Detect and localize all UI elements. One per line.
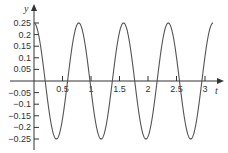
x-axis-arrow-icon	[217, 78, 224, 84]
y-tick-label: −0.25	[8, 134, 31, 144]
cosine-plot: 0.250.20.150.10.05−0.05−0.1−0.15−0.2−0.2…	[0, 0, 228, 153]
x-axis-ticks: 0.511.522.53	[56, 76, 207, 94]
x-tick-label: 1.5	[113, 84, 126, 94]
y-axis-label: y	[23, 3, 29, 14]
y-tick-label: −0.05	[8, 88, 31, 98]
x-axis-label: t	[215, 85, 218, 96]
y-tick-label: 0.25	[13, 18, 31, 28]
y-tick-label: 0.05	[13, 64, 31, 74]
y-tick-label: −0.2	[13, 122, 31, 132]
y-axis-arrow-icon	[31, 4, 37, 11]
y-tick-label: 0.1	[18, 53, 31, 63]
y-tick-label: −0.1	[13, 99, 31, 109]
y-tick-label: −0.15	[8, 111, 31, 121]
x-tick-label: 3	[202, 84, 207, 94]
x-tick-label: 2	[145, 84, 150, 94]
y-tick-label: 0.15	[13, 41, 31, 51]
y-tick-label: 0.2	[18, 30, 31, 40]
